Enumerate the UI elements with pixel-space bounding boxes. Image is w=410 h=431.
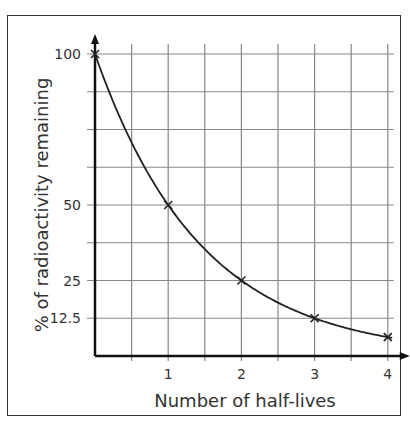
x-tick-label: 4 (383, 366, 392, 382)
x-tick-label: 2 (237, 366, 246, 382)
y-axis-arrow-icon (91, 34, 99, 44)
x-axis-title: Number of half-lives (154, 390, 336, 411)
x-tick-label: 3 (310, 366, 319, 382)
y-tick-label: 50 (63, 197, 81, 213)
y-tick-label: 12.5 (50, 310, 81, 326)
x-axis-arrow-icon (400, 352, 410, 360)
x-tick-label: 1 (164, 366, 173, 382)
y-tick-label: 100 (54, 46, 81, 62)
y-axis-title: % of radioactivity remaining (31, 78, 52, 333)
chart-grid (87, 44, 394, 361)
decay-curve-line (95, 54, 392, 338)
chart-axes (91, 34, 410, 360)
y-tick-label: 25 (63, 273, 81, 289)
chart-plot: 1234100502512.5 Number of half-lives % o… (0, 0, 410, 431)
tick-labels: 1234100502512.5 (50, 46, 393, 382)
